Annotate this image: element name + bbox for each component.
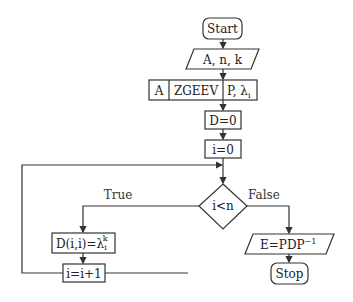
output-node: E=PDP−1 [245, 234, 334, 254]
decision-node: i<n [199, 184, 247, 229]
init-d-label: D=0 [209, 114, 236, 128]
stop-label: Stop [276, 267, 304, 281]
init-d-node: D=0 [205, 111, 241, 129]
edge-false [247, 206, 289, 233]
start-node: Start [203, 18, 242, 39]
edge-true [83, 206, 199, 232]
false-label: False [248, 188, 280, 202]
init-i-node: i=0 [205, 140, 241, 158]
assign-d-node: D(i,i)=λik [52, 233, 115, 253]
zgeev-node: A ZGEEV P, λi [149, 80, 257, 100]
decision-label: i<n [212, 199, 234, 213]
zgeev-input-label: A [154, 84, 164, 98]
assign-d-label: D(i,i)=λik [56, 234, 108, 252]
stop-node: Stop [271, 263, 308, 284]
true-label: True [104, 188, 133, 202]
increment-node: i=i+1 [63, 264, 105, 282]
input-label: A, n, k [202, 53, 243, 67]
start-label: Start [207, 22, 238, 36]
init-i-label: i=0 [212, 143, 234, 157]
flowchart: Start A, n, k A ZGEEV P, λi D=0 i=0 i<n … [0, 0, 353, 302]
input-node: A, n, k [186, 49, 259, 69]
zgeev-label: ZGEEV [174, 84, 218, 98]
edge-loop-back [22, 165, 222, 273]
zgeev-output-label: P, λi [227, 84, 251, 100]
increment-label: i=i+1 [66, 267, 101, 281]
